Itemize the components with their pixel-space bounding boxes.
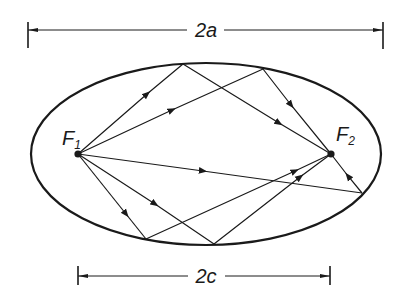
focal-distance-left-arrowhead xyxy=(78,274,88,278)
ray-f1-to-bottom-1 xyxy=(78,154,146,239)
focus-f1-label: F1 xyxy=(62,127,81,152)
ray-top-2-to-f2 xyxy=(263,69,331,154)
focal-distance-right-arrowhead xyxy=(320,274,330,278)
major-axis-dimension: 2a xyxy=(28,19,383,49)
ray-f1-to-top-1 xyxy=(78,64,183,154)
ray-bottom-2-to-f2 xyxy=(214,154,331,244)
ray-f1-to-bottom-2 xyxy=(78,154,214,244)
focus-f1: F1 xyxy=(62,127,82,158)
ray-f1-to-top-2 xyxy=(78,69,263,154)
major-axis-right-arrowhead xyxy=(373,28,383,32)
ellipse-reflection-diagram: 2a F1 F2 xyxy=(0,0,407,300)
focal-distance-dimension: 2c xyxy=(78,265,330,287)
focus-f2-label: F2 xyxy=(336,123,355,148)
major-axis-label: 2a xyxy=(194,19,217,41)
major-axis-left-arrowhead xyxy=(28,28,38,32)
focus-f2-dot xyxy=(327,150,334,157)
focal-distance-label: 2c xyxy=(194,265,216,287)
focus-f2: F2 xyxy=(327,123,355,158)
incident-rays xyxy=(78,64,362,244)
ray-top-1-to-f2 xyxy=(183,64,331,154)
ray-right-to-f2 xyxy=(331,154,362,193)
